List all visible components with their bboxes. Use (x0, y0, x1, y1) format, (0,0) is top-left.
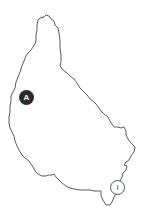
region-map (0, 0, 147, 216)
marker-a[interactable]: A (19, 90, 34, 105)
marker-i-label: I (116, 183, 118, 192)
marker-a-label: A (24, 93, 30, 102)
region-outline (9, 15, 135, 205)
marker-i[interactable]: I (110, 180, 125, 195)
